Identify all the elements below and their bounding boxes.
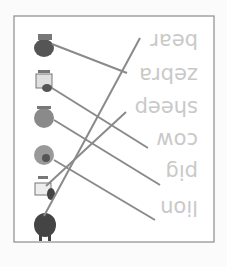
word-zebra: zebra [139,63,198,87]
worksheet-canvas: bear zebra sheep cow pig lion [0,0,227,267]
animal-icon-4 [34,145,54,165]
word-cow: cow [156,128,198,152]
word-pig: pig [166,160,199,184]
word-bear: bear [150,29,198,53]
worksheet: bear zebra sheep cow pig lion [0,0,227,267]
word-sheep: sheep [135,96,198,120]
word-lion: lion [160,196,198,220]
